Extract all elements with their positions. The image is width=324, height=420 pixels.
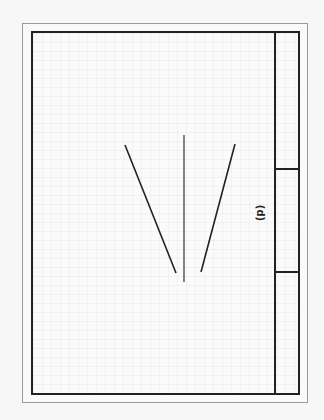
line-figure — [0, 0, 324, 420]
left-diagonal-line — [125, 145, 176, 273]
right-diagonal-line — [201, 144, 235, 272]
